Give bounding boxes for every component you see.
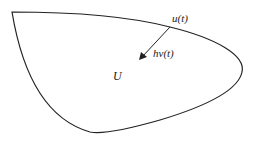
region-label: U: [113, 70, 122, 82]
diagram-canvas: [0, 0, 254, 141]
region-boundary: [12, 12, 242, 133]
point-label: u(t): [172, 13, 188, 24]
vector-label: hv(t): [153, 48, 174, 59]
